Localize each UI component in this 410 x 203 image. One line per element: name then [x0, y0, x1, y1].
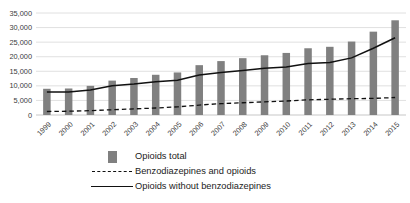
- bar-2013: [348, 42, 356, 115]
- chart-legend: Opioids total Benzodiazepines and opioid…: [0, 150, 410, 193]
- bar-2009: [261, 55, 269, 115]
- y-axis-tick-label: 0: [28, 111, 32, 120]
- bar-2006: [195, 65, 203, 115]
- y-axis-tick-label: 15,000: [9, 67, 32, 76]
- x-axis-tick-label: 2008: [231, 120, 249, 138]
- x-axis-tick-label: 2013: [340, 120, 358, 138]
- legend-label-opioids-total: Opioids total: [135, 150, 187, 163]
- x-axis-tick-label: 2015: [383, 120, 401, 138]
- x-axis-tick-label: 2002: [100, 120, 118, 138]
- bar-2012: [326, 47, 334, 115]
- x-axis-tick-label: 2003: [122, 120, 140, 138]
- x-axis-tick-label: 2010: [274, 120, 292, 138]
- x-axis-tick-label: 2007: [209, 120, 227, 138]
- legend-item-opioids-without-benzodiazepines: Opioids without benzodiazepines: [89, 180, 321, 193]
- legend-label-opioids-without-benzodiazepines: Opioids without benzodiazepines: [135, 180, 271, 193]
- legend-item-opioids-total: Opioids total: [89, 150, 321, 163]
- x-axis-tick-label: 2005: [166, 120, 184, 138]
- y-axis-tick-label: 5,000: [14, 96, 33, 105]
- x-axis-tick-label: 2011: [297, 120, 315, 138]
- y-axis-tick-label: 25,000: [9, 38, 32, 47]
- bar-2014: [370, 32, 378, 115]
- x-axis-tick-label: 2014: [361, 120, 379, 138]
- bar-2010: [283, 53, 291, 115]
- bar-2007: [217, 61, 225, 115]
- solid-line-icon: [89, 180, 135, 193]
- bar-swatch-icon: [89, 150, 135, 163]
- chart-plot-area: 05,00010,00015,00020,00025,00030,00035,0…: [0, 0, 410, 150]
- legend-label-benzodiazepines-and-opioids: Benzodiazepines and opioids: [135, 165, 256, 178]
- bar-2004: [152, 75, 160, 115]
- y-axis-tick-label: 20,000: [9, 52, 32, 61]
- bar-2008: [239, 58, 247, 115]
- bar-2015: [391, 20, 399, 115]
- y-axis-tick-label: 35,000: [9, 9, 32, 18]
- x-axis-tick-label: 2009: [253, 120, 271, 138]
- x-axis-tick-label: 2004: [144, 120, 162, 138]
- x-axis-tick-label: 2006: [187, 120, 205, 138]
- y-axis-tick-label: 30,000: [9, 23, 32, 32]
- dashed-line-icon: [89, 165, 135, 178]
- y-axis-tick-label: 10,000: [9, 81, 32, 90]
- bar-2011: [304, 48, 312, 115]
- x-axis-tick-label: 2000: [57, 120, 75, 138]
- legend-item-benzodiazepines-and-opioids: Benzodiazepines and opioids: [89, 165, 321, 178]
- x-axis-tick-label: 2001: [79, 120, 97, 138]
- bar-2005: [174, 72, 182, 115]
- x-axis-tick-label: 1999: [35, 120, 53, 138]
- chart-container: 05,00010,00015,00020,00025,00030,00035,0…: [0, 0, 410, 203]
- x-axis-tick-label: 2012: [318, 120, 336, 138]
